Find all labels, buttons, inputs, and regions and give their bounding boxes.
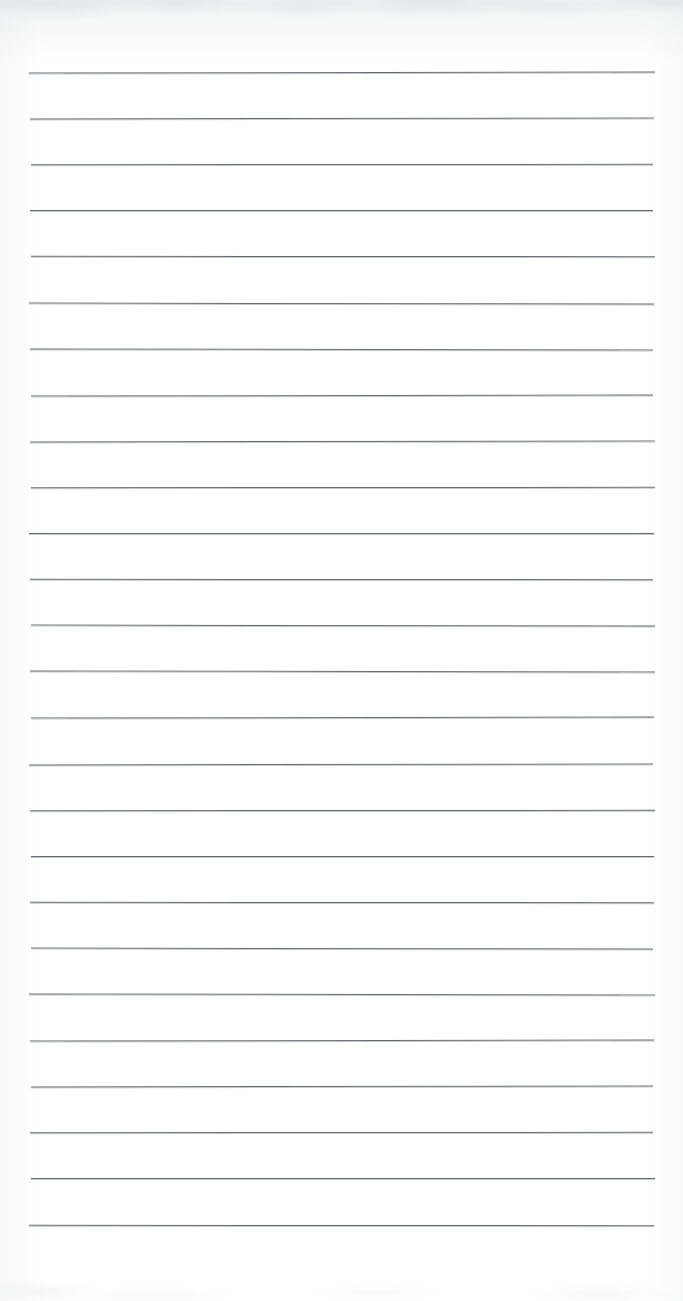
rule-line [29,993,655,995]
writing-line-slot[interactable] [29,998,655,1039]
rule-line [30,1040,654,1042]
rule-line [31,948,653,950]
writing-line-slot[interactable] [29,1182,655,1223]
rule-line [31,1178,655,1179]
ruled-lines-group [0,0,683,1301]
rule-line [29,533,654,534]
rule-line [30,579,653,580]
rule-line [31,256,655,257]
writing-line-slot[interactable] [29,1090,655,1131]
writing-line-slot[interactable] [29,721,655,762]
rule-line [30,440,655,442]
writing-line-slot[interactable] [29,260,655,301]
rule-line [30,1132,653,1133]
writing-line-slot[interactable] [29,353,655,394]
writing-line-slot[interactable] [29,814,655,855]
writing-line-slot[interactable] [29,675,655,716]
writing-line-slot[interactable] [29,952,655,993]
writing-line-slot[interactable] [29,491,655,532]
rule-line [29,302,654,304]
rule-line [31,487,655,488]
rule-line [30,210,653,211]
writing-line-slot[interactable] [29,629,655,670]
writing-line-slot[interactable] [29,906,655,947]
rule-line [29,71,655,73]
rule-line [31,394,653,396]
rule-line [30,348,653,350]
writing-line-slot[interactable] [29,445,655,486]
rule-line [30,671,655,673]
writing-line-slot[interactable] [29,1044,655,1085]
writing-line-slot[interactable] [29,860,655,901]
rule-line [31,164,653,165]
writing-line-slot[interactable] [29,583,655,624]
writing-line-slot[interactable] [29,307,655,348]
rule-line [30,118,654,120]
writing-line-slot[interactable] [29,168,655,209]
writing-line-slot[interactable] [29,214,655,255]
rule-line [31,856,654,857]
rule-line [30,809,655,810]
writing-line-slot[interactable] [29,768,655,809]
writing-line-slot[interactable] [29,30,655,71]
scanned-page [0,0,683,1301]
rule-line [31,717,654,719]
rule-line [30,902,654,903]
writing-line-slot[interactable] [29,537,655,578]
writing-line-slot[interactable] [29,399,655,440]
rule-line [31,625,655,627]
rule-line [29,763,653,765]
writing-line-slot[interactable] [29,1136,655,1177]
writing-line-slot[interactable] [29,76,655,117]
rule-line [31,1086,653,1088]
writing-line-slot[interactable] [29,122,655,163]
rule-line [29,1224,654,1225]
